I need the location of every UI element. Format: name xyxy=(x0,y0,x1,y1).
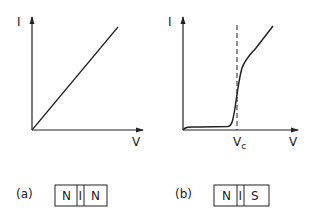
panel-b-layer-1: N xyxy=(222,189,231,203)
panel-a-y-label: I xyxy=(17,15,21,29)
panel-a-layer-1: N xyxy=(62,189,71,203)
panel-b-caption: (b) xyxy=(175,187,192,201)
panel-a-junction: N I N xyxy=(55,185,107,206)
panel-a-layer-2: I xyxy=(79,189,83,203)
vc-sub: c xyxy=(241,141,246,151)
panel-b-layer-2: I xyxy=(239,189,243,203)
panel-b-layer-3: S xyxy=(251,189,259,203)
panel-b-iv-curve xyxy=(183,26,273,130)
panel-b-vc-label: Vc xyxy=(233,135,246,151)
panel-a-layer-3: N xyxy=(91,189,100,203)
panel-a-plot: I V xyxy=(17,15,143,149)
panel-b-junction: N I S xyxy=(214,185,269,206)
panel-b-y-label: I xyxy=(168,15,172,29)
panel-a-x-label: V xyxy=(132,135,141,149)
panel-b-x-label: V xyxy=(289,135,298,149)
panel-b-plot: I V Vc xyxy=(168,15,298,151)
panel-a-linear-curve xyxy=(32,27,118,130)
panel-a-caption: (a) xyxy=(16,187,33,201)
diagram: I V I V Vc (a) N I N (b) N I S xyxy=(0,0,316,220)
